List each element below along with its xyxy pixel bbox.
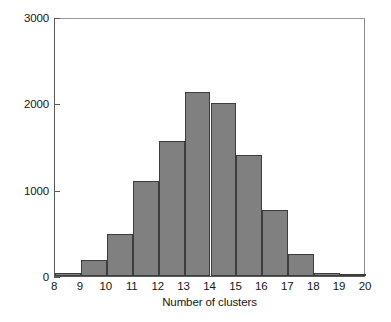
y-axis-tick [54, 104, 60, 105]
y-axis-tick [54, 18, 60, 19]
x-axis-labels: 891011121314151617181920 [0, 0, 391, 322]
histogram-figure: 0100020003000 891011121314151617181920 N… [0, 0, 391, 322]
y-axis-tick [54, 191, 60, 192]
x-axis-title: Number of clusters [54, 296, 365, 308]
y-axis-tick [54, 277, 60, 278]
x-axis-tick-label: 20 [350, 280, 380, 293]
